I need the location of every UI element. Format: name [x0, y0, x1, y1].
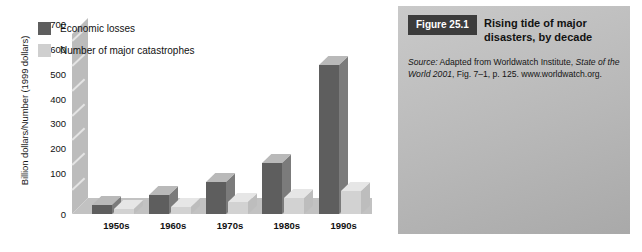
- bar-1980s-economic-losses: [262, 163, 282, 214]
- bar-1960s-catastrophes: [171, 207, 191, 214]
- figure-number-badge: Figure 25.1: [408, 15, 477, 35]
- x-tick-label: 1970s: [217, 220, 243, 231]
- x-tick-label: 1980s: [274, 220, 300, 231]
- bar-1970s-catastrophes: [228, 202, 248, 214]
- y-axis-title: Billion dollars/Number (1999 dollars): [19, 11, 30, 211]
- y-tick-label: 200: [50, 143, 66, 154]
- bar-1990s-economic-losses: [319, 65, 339, 214]
- figure-container: Billion dollars/Number (1999 dollars) 01…: [0, 0, 642, 252]
- figure-source-note: Source: Adapted from Worldwatch Institut…: [408, 57, 622, 80]
- figure-caption-title: Rising tide of major disasters, by decad…: [484, 16, 622, 44]
- x-tick-label: 1990s: [330, 220, 356, 231]
- y-tick-label: 0: [61, 209, 66, 220]
- bar-1980s-catastrophes: [284, 198, 304, 214]
- y-tick-label: 300: [50, 118, 66, 129]
- bar-1950s-catastrophes: [114, 209, 134, 214]
- bar-front-face: [114, 209, 134, 214]
- source-label: Source:: [408, 57, 438, 67]
- bar-1990s-catastrophes: [341, 191, 361, 214]
- y-tick-label: 400: [50, 93, 66, 104]
- bar-1960s-economic-losses: [149, 195, 169, 214]
- legend-label: Number of major catastrophes: [60, 45, 195, 56]
- caption-panel: Figure 25.1 Rising tide of major disaste…: [398, 6, 630, 234]
- bar-1970s-economic-losses: [206, 182, 226, 214]
- bar-front-face: [171, 207, 191, 214]
- bar-front-face: [284, 198, 304, 214]
- legend-item: Economic losses: [38, 22, 195, 35]
- chart-legend: Economic lossesNumber of major catastrop…: [38, 22, 195, 66]
- chart-panel: Billion dollars/Number (1999 dollars) 01…: [0, 0, 392, 252]
- legend-label: Economic losses: [60, 23, 135, 34]
- legend-swatch-icon: [38, 44, 51, 57]
- bar-front-face: [228, 202, 248, 214]
- x-tick-label: 1960s: [160, 220, 186, 231]
- bar-front-face: [92, 205, 112, 214]
- source-url: www.worldwatch.org.: [521, 69, 602, 79]
- legend-item: Number of major catastrophes: [38, 44, 195, 57]
- y-tick-label: 500: [50, 68, 66, 79]
- bar-front-face: [149, 195, 169, 214]
- source-text-b: , Fig. 7–1, p. 125.: [452, 69, 519, 79]
- y-tick-label: 100: [50, 168, 66, 179]
- bar-front-face: [319, 65, 339, 214]
- x-tick-label: 1950s: [103, 220, 129, 231]
- bar-front-face: [341, 191, 361, 214]
- bar-front-face: [262, 163, 282, 214]
- legend-swatch-icon: [38, 22, 51, 35]
- bar-1950s-economic-losses: [92, 205, 112, 214]
- source-text-a: Adapted from Worldwatch Institute,: [438, 57, 576, 67]
- bar-front-face: [206, 182, 226, 214]
